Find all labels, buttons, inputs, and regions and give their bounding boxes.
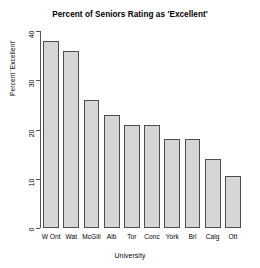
x-axis-tick-label: Conc: [142, 233, 162, 240]
x-axis-tick-label: Wat: [61, 233, 81, 240]
bar: [124, 125, 140, 228]
y-axis-tick-label-text: 30: [29, 80, 36, 88]
y-axis-tick-label-text: 20: [29, 129, 36, 137]
plot-area: [41, 31, 243, 228]
y-axis-tick: [36, 228, 40, 229]
y-axis-tick: [36, 80, 40, 81]
y-axis-tick: [36, 130, 40, 131]
bar: [164, 139, 180, 228]
bar: [225, 176, 241, 228]
bar: [144, 125, 160, 228]
bar: [104, 115, 120, 228]
x-axis-tick-label: W Ont: [41, 233, 61, 240]
x-axis-tick-label: Tor: [122, 233, 142, 240]
y-axis-tick-label-text: 10: [29, 178, 36, 186]
x-axis-title: University: [0, 252, 260, 259]
bar: [205, 159, 221, 228]
y-axis-tick-label-text: 40: [29, 31, 36, 39]
y-axis-title: Percent 'Excellent': [9, 40, 16, 96]
bar: [84, 100, 100, 228]
x-axis-tick-label: Ott: [223, 233, 243, 240]
x-axis-tick-label: Calg: [203, 233, 223, 240]
bar: [43, 41, 59, 228]
y-axis-tick-label-text: 0: [29, 228, 36, 232]
y-axis-tick: [36, 179, 40, 180]
x-axis-tick-label: Bri: [182, 233, 202, 240]
bar: [185, 139, 201, 228]
x-axis-tick-label: McGill: [81, 233, 101, 240]
chart-title: Percent of Seniors Rating as 'Excellent': [0, 10, 260, 19]
bar-chart: Percent of Seniors Rating as 'Excellent'…: [0, 0, 260, 268]
x-axis-tick-label: Alb: [102, 233, 122, 240]
bar: [63, 51, 79, 228]
x-axis-tick-label: York: [162, 233, 182, 240]
y-axis-tick: [36, 31, 40, 32]
